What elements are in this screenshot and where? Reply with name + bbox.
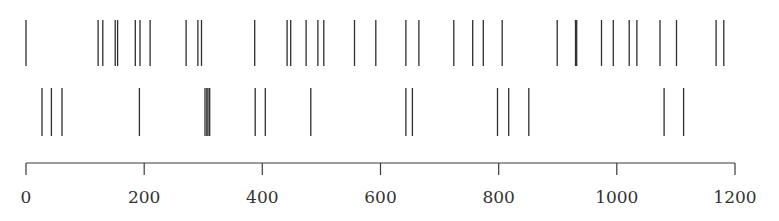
x-tick-label: 1200 (713, 187, 756, 207)
spike-row-1 (26, 20, 724, 66)
x-tick-label: 400 (246, 187, 278, 207)
spike-raster-chart: 020040060080010001200 (0, 0, 779, 221)
spike-row-2 (42, 88, 684, 136)
x-tick-label: 200 (128, 187, 160, 207)
x-tick-label: 1000 (595, 187, 638, 207)
x-tick-label: 0 (21, 187, 32, 207)
x-axis: 020040060080010001200 (21, 163, 757, 207)
x-tick-label: 600 (364, 187, 396, 207)
x-tick-label: 800 (482, 187, 514, 207)
spike-rows (26, 20, 724, 136)
